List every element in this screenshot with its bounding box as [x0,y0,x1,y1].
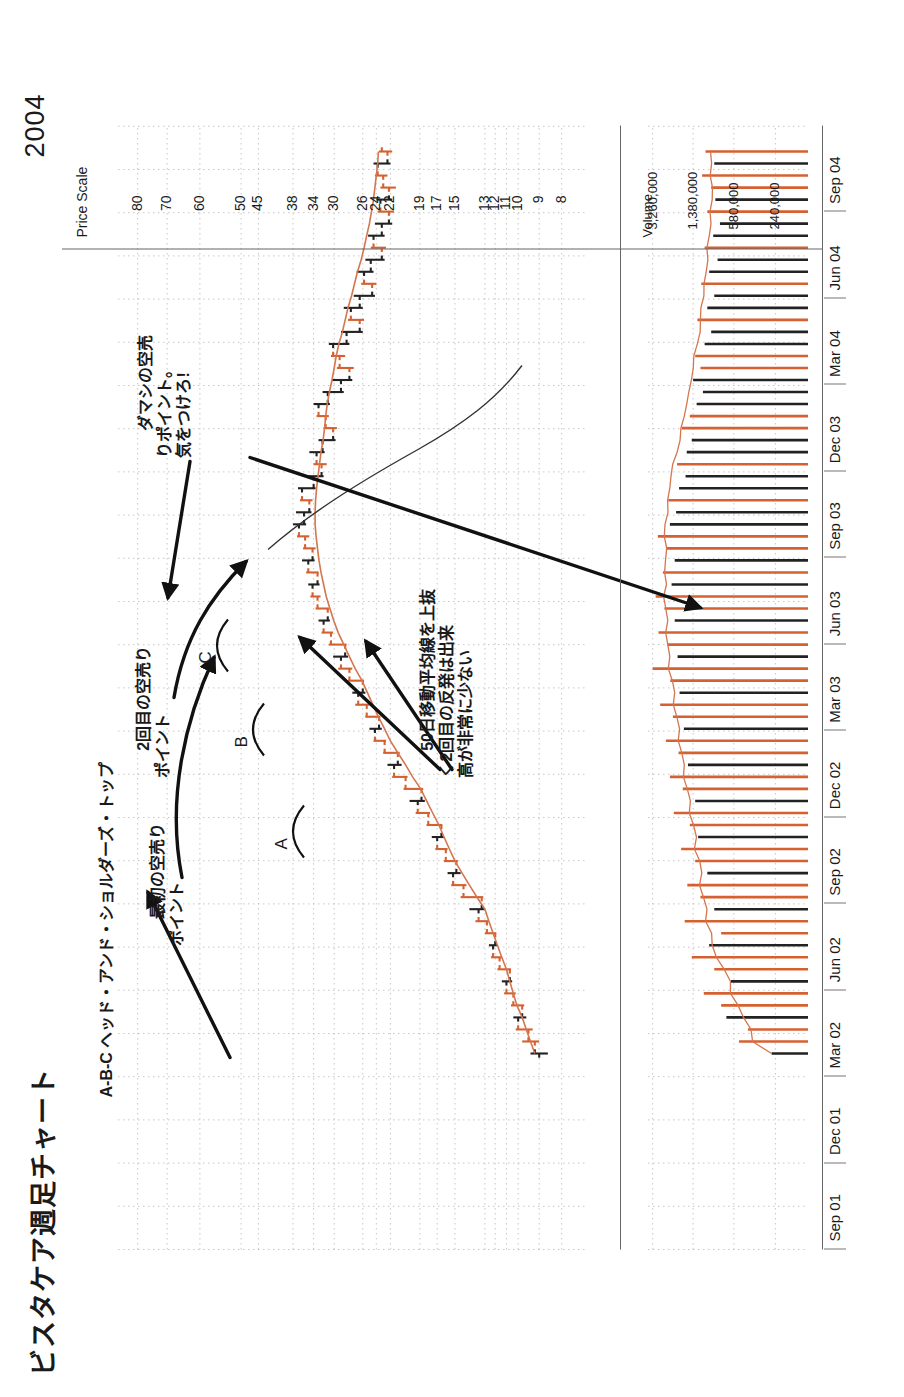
annotation-fake-short-text: ダマシの空売 りポイント。 気をつけろ! [137,334,192,457]
annotation-second-short: 2回目の空売り ポイント [116,645,192,777]
annotation-first-short: 最初の空売り ポイント [130,822,206,945]
chart-page: ビスタケア週足チャート 2004 Price Scale Volume 8070… [0,0,904,1397]
brace-peak-c [217,619,228,671]
annotation-fake-short: ダマシの空売 りポイント。 気をつけろ! [118,334,212,457]
arrow-fake-short-volume [250,457,700,607]
peak-label-c: C [196,651,216,663]
rotated-chart-canvas: ビスタケア週足チャート 2004 Price Scale Volume 8070… [0,0,904,1397]
price-scale-divider [62,248,822,249]
brace-peak-a [293,805,304,857]
annotation-head-shoulders: A-B-C ヘッド・アンド・ショルダーズ・トップ [98,761,117,1097]
peak-label-b: B [232,736,252,747]
arrow-fake-short-price [168,461,190,597]
panel-separator [620,125,621,1249]
annotation-first-short-text: 最初の空売り ポイント [149,822,185,945]
annotation-ma-breakout: 50日移動平均線を上抜 く2回目の反発は出来 高が非常に少ない [400,589,494,777]
axis-baseline [822,125,823,1249]
peak-label-a: A [272,838,292,849]
brace-peak-b [253,703,264,755]
annotation-second-short-text: 2回目の空売り ポイント [135,645,171,777]
annotation-ma-breakout-text: 50日移動平均線を上抜 く2回目の反発は出来 高が非常に少ない [419,589,474,777]
